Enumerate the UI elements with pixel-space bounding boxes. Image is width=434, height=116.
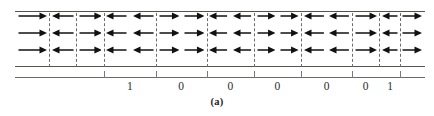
arrow-slot — [254, 10, 278, 22]
bit-label: 0 — [171, 79, 191, 93]
axis-tick — [254, 71, 255, 78]
domain-arrow-right — [18, 44, 47, 56]
arrow-slot — [15, 27, 49, 39]
domain-cell — [379, 9, 400, 23]
domain-arrow-left — [304, 44, 324, 56]
domain-arrow-left — [233, 10, 252, 22]
domain-cell — [156, 26, 207, 40]
domain-cell — [156, 9, 207, 23]
domain-arrow-left — [133, 44, 154, 56]
arrow-slot — [254, 27, 278, 39]
arrow-slot — [181, 10, 206, 22]
domain-cell — [379, 26, 400, 40]
arrow-slot — [327, 44, 352, 56]
domain-cell — [15, 43, 49, 57]
domain-cell — [254, 9, 301, 23]
arrow-slot — [230, 27, 254, 39]
arrow-slot — [76, 44, 104, 56]
arrow-slot — [104, 10, 130, 22]
arrow-slot — [352, 27, 379, 39]
bit-label: 0 — [317, 79, 337, 93]
bit-label: 1 — [380, 79, 400, 93]
arrow-slot — [352, 10, 379, 22]
arrow-slot — [400, 27, 425, 39]
domain-cell — [15, 26, 49, 40]
arrow-slot — [254, 44, 278, 56]
domain-cell — [207, 43, 254, 57]
domain-cell — [76, 26, 104, 40]
domain-cell — [352, 43, 379, 57]
domain-arrow-right — [257, 10, 276, 22]
domain-cell — [76, 43, 104, 57]
arrow-slot — [130, 27, 156, 39]
bit-axis — [15, 77, 425, 78]
domain-arrow-right — [355, 44, 377, 56]
domain-arrow-left — [106, 10, 127, 22]
arrow-slot — [230, 10, 254, 22]
domain-arrow-right — [280, 10, 299, 22]
domain-cell — [254, 43, 301, 57]
domain-cell — [156, 43, 207, 57]
domain-arrow-left — [52, 44, 74, 56]
arrow-slot — [400, 10, 425, 22]
domain-arrow-right — [18, 10, 47, 22]
bit-label: 0 — [356, 79, 376, 93]
magnetic-domain-figure: 1000001 (a) — [0, 0, 434, 116]
domain-strip — [15, 11, 425, 67]
domain-arrow-right — [280, 44, 299, 56]
domain-cell — [254, 26, 301, 40]
domain-cell — [301, 9, 352, 23]
domain-cell — [49, 26, 76, 40]
arrow-slot — [104, 27, 130, 39]
domain-arrow-left — [106, 44, 127, 56]
domain-cell — [49, 43, 76, 57]
arrow-slot — [104, 44, 130, 56]
arrow-slot — [327, 27, 352, 39]
arrow-slot — [301, 27, 326, 39]
arrow-slot — [156, 44, 181, 56]
domain-cell — [400, 9, 425, 23]
arrow-slot — [230, 44, 254, 56]
arrow-slot — [301, 44, 326, 56]
domain-cell — [207, 9, 254, 23]
arrow-slot — [181, 27, 206, 39]
bit-labels: 1000001 — [15, 79, 425, 95]
arrow-slot — [15, 10, 49, 22]
axis-tick — [207, 71, 208, 78]
domain-cell — [104, 43, 156, 57]
domain-arrow-right — [355, 27, 377, 39]
domain-cell — [15, 9, 49, 23]
domain-arrow-right — [184, 27, 204, 39]
arrow-slot — [15, 44, 49, 56]
domain-arrow-left — [209, 27, 228, 39]
arrow-slot — [181, 44, 206, 56]
domain-arrow-left — [304, 10, 324, 22]
domain-arrow-left — [382, 44, 398, 56]
domain-cell — [400, 43, 425, 57]
domain-cell — [49, 9, 76, 23]
domain-arrow-left — [209, 10, 228, 22]
domain-arrow-right — [18, 27, 47, 39]
domain-cell — [104, 9, 156, 23]
domain-arrow-right — [257, 27, 276, 39]
domain-arrow-left — [329, 27, 349, 39]
domain-arrow-right — [257, 44, 276, 56]
arrow-slot — [352, 44, 379, 56]
domain-arrow-left — [233, 27, 252, 39]
arrow-slot — [130, 10, 156, 22]
domain-arrow-left — [106, 27, 127, 39]
arrow-slot — [278, 10, 302, 22]
domain-arrow-left — [329, 10, 349, 22]
arrow-slot — [207, 44, 231, 56]
arrow-slot — [49, 44, 76, 56]
domain-cell — [301, 43, 352, 57]
arrow-slot — [379, 10, 400, 22]
domain-arrow-right — [159, 27, 179, 39]
domain-cell — [352, 9, 379, 23]
domain-cell — [301, 26, 352, 40]
arrow-slot — [379, 44, 400, 56]
arrow-slot — [156, 10, 181, 22]
arrow-slot — [400, 44, 425, 56]
domain-arrow-left — [133, 27, 154, 39]
domain-arrow-right — [280, 27, 299, 39]
